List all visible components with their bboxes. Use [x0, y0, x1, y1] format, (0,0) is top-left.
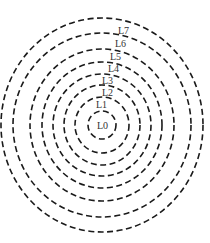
- level-label-l4: L4: [108, 63, 119, 74]
- level-label-l7: L7: [118, 25, 129, 36]
- level-label-l1: L1: [96, 99, 107, 110]
- concentric-levels-diagram: L0L1L2L3L4L5L6L7: [0, 0, 210, 243]
- level-label-l2: L2: [102, 87, 113, 98]
- level-label-l6: L6: [115, 38, 126, 49]
- level-label-l0: L0: [97, 120, 108, 131]
- level-label-l3: L3: [102, 75, 113, 86]
- level-label-l5: L5: [110, 51, 121, 62]
